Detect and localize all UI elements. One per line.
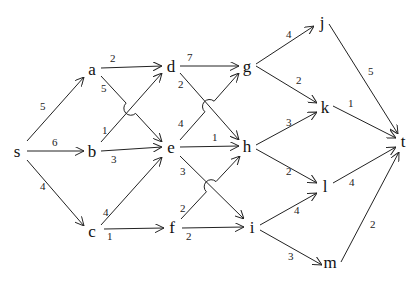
node-m: m — [323, 253, 336, 272]
edge-c-e — [101, 157, 162, 225]
edge-weight-s-b: 6 — [52, 136, 58, 148]
edge-weight-k-t: 1 — [348, 97, 354, 109]
node-f: f — [169, 218, 175, 237]
edge-c-f — [104, 228, 164, 229]
node-a: a — [88, 60, 96, 79]
edge-weight-s-c: 4 — [40, 180, 46, 192]
node-s: s — [14, 142, 21, 161]
edge-weight-e-g: 4 — [178, 117, 184, 129]
edge-weight-c-f: 1 — [107, 230, 113, 242]
edge-weight-i-m: 3 — [288, 250, 294, 262]
edge-weight-f-i: 2 — [186, 230, 192, 242]
edge-weight-d-g: 7 — [187, 51, 193, 63]
edge-weight-e-i: 3 — [180, 165, 186, 177]
edge-s-a — [27, 77, 84, 141]
edge-s-c — [27, 160, 84, 226]
edge-b-e — [101, 147, 162, 151]
edge-weight-f-h: 2 — [180, 202, 186, 214]
node-g: g — [243, 57, 252, 76]
edge-weight-m-t: 2 — [370, 218, 376, 230]
node-d: d — [167, 57, 176, 76]
node-e: e — [167, 138, 175, 157]
edge-weight-d-h: 2 — [178, 78, 184, 90]
edges-layer — [27, 24, 399, 265]
edge-weight-g-j: 4 — [286, 28, 292, 40]
node-l: l — [323, 177, 328, 196]
edge-weight-a-e: 5 — [101, 82, 107, 94]
node-h: h — [243, 137, 252, 156]
edge-weight-g-k: 2 — [296, 74, 302, 86]
edge-weight-b-e: 3 — [111, 153, 117, 165]
edge-weight-a-d: 2 — [110, 52, 116, 64]
edge-f-i — [182, 227, 244, 228]
edge-k-t — [333, 106, 396, 138]
node-j: j — [319, 13, 325, 32]
edge-weight-c-e: 4 — [103, 206, 109, 218]
edge-weight-e-h: 1 — [212, 131, 218, 143]
node-k: k — [321, 98, 330, 117]
edge-weight-h-l: 2 — [286, 165, 292, 177]
edge-weight-j-t: 5 — [368, 65, 374, 77]
edge-m-t — [341, 152, 399, 262]
edge-i-l — [260, 193, 317, 225]
edge-g-j — [256, 26, 314, 64]
node-i: i — [250, 218, 255, 237]
graph-diagram: 56425134172413224232435142 sabcdefghijkl… — [0, 0, 418, 283]
edge-weight-i-l: 4 — [294, 204, 300, 216]
edge-weight-s-a: 5 — [40, 100, 46, 112]
node-c: c — [88, 222, 96, 241]
edge-g-k — [256, 66, 317, 103]
node-t: t — [401, 132, 406, 151]
edge-weight-l-t: 4 — [349, 176, 355, 188]
edge-j-t — [329, 24, 398, 134]
edge-a-d — [101, 66, 162, 68]
edge-weight-h-k: 3 — [286, 116, 292, 128]
edge-l-t — [333, 147, 396, 183]
node-b: b — [88, 142, 97, 161]
edge-e-h — [180, 146, 239, 147]
edge-weight-b-d: 1 — [102, 124, 108, 136]
